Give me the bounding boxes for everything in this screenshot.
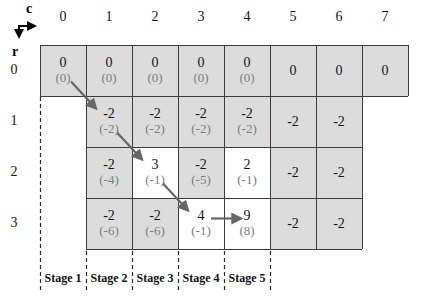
cell-value: -2	[333, 114, 345, 130]
cell-subvalue: (0)	[193, 71, 208, 86]
cell-r0-c5: 0	[270, 45, 316, 96]
row-axis-label: r	[8, 44, 22, 60]
cell-r1-c6: -2	[316, 96, 362, 147]
cell-r3-c4: 9(8)	[224, 198, 270, 249]
cell-value: 0	[106, 55, 113, 71]
cell-subvalue: (-2)	[99, 122, 119, 137]
row-label-3: 3	[4, 215, 24, 231]
cell-r3-c6: -2	[316, 198, 362, 249]
cell-r2-c4: 2(-1)	[224, 147, 270, 198]
cell-r1-c1: -2(-2)	[86, 96, 132, 147]
cell-value: 0	[244, 55, 251, 71]
cell-value: -2	[287, 165, 299, 181]
cell-r0-c2: 0(0)	[132, 45, 178, 96]
cell-value: 2	[244, 157, 251, 173]
column-header-5: 5	[270, 9, 316, 25]
stage-label-2: Stage 2	[86, 271, 132, 286]
cell-value: 0	[60, 55, 67, 71]
cell-subvalue: (-4)	[99, 173, 119, 188]
cell-value: -2	[195, 157, 207, 173]
cell-subvalue: (0)	[101, 71, 116, 86]
cell-subvalue: (-2)	[145, 122, 165, 137]
cell-value: 0	[336, 63, 343, 79]
column-header-2: 2	[132, 9, 178, 25]
cell-value: -2	[149, 208, 161, 224]
cell-r0-c7: 0	[362, 45, 408, 96]
cell-r3-c5: -2	[270, 198, 316, 249]
stage-label-3: Stage 3	[132, 271, 178, 286]
cell-r0-c6: 0	[316, 45, 362, 96]
cell-r2-c1: -2(-4)	[86, 147, 132, 198]
stage-label-5: Stage 5	[224, 271, 270, 286]
cell-r2-c3: -2(-5)	[178, 147, 224, 198]
cell-r3-c3: 4(-1)	[178, 198, 224, 249]
cell-r0-c1: 0(0)	[86, 45, 132, 96]
cell-r0-c3: 0(0)	[178, 45, 224, 96]
cell-r1-c4: -2(-2)	[224, 96, 270, 147]
cell-value: -2	[195, 106, 207, 122]
column-axis-label: c	[26, 1, 32, 17]
column-header-3: 3	[178, 9, 224, 25]
cell-value: 9	[244, 208, 251, 224]
cell-value: 0	[290, 63, 297, 79]
cell-value: -2	[333, 165, 345, 181]
column-header-7: 7	[362, 9, 408, 25]
cell-r3-c1: -2(-6)	[86, 198, 132, 249]
cell-r1-c2: -2(-2)	[132, 96, 178, 147]
cell-subvalue: (-1)	[145, 173, 165, 188]
column-header-4: 4	[224, 9, 270, 25]
cell-r2-c2: 3(-1)	[132, 147, 178, 198]
cell-r1-c5: -2	[270, 96, 316, 147]
cell-value: -2	[103, 208, 115, 224]
cell-value: 0	[382, 63, 389, 79]
cell-value: 3	[152, 157, 159, 173]
cell-value: 4	[198, 208, 205, 224]
cell-subvalue: (-6)	[145, 224, 165, 239]
cell-value: -2	[103, 157, 115, 173]
cell-subvalue: (-6)	[99, 224, 119, 239]
cell-value: -2	[149, 106, 161, 122]
cell-subvalue: (-1)	[237, 173, 257, 188]
cell-subvalue: (0)	[55, 71, 70, 86]
cell-value: -2	[287, 114, 299, 130]
cell-r0-c0: 0(0)	[40, 45, 86, 96]
stage-label-1: Stage 1	[40, 271, 86, 286]
cell-r2-c5: -2	[270, 147, 316, 198]
cell-subvalue: (8)	[239, 224, 254, 239]
column-header-0: 0	[40, 9, 86, 25]
cell-value: -2	[333, 216, 345, 232]
row-label-2: 2	[4, 164, 24, 180]
column-header-6: 6	[316, 9, 362, 25]
cell-value: -2	[103, 106, 115, 122]
cell-value: 0	[152, 55, 159, 71]
dp-stage-table-diagram: c r 01234567 0123 0(0)0(0)0(0)0(0)0(0)00…	[0, 0, 427, 301]
stage-label-4: Stage 4	[178, 271, 224, 286]
cell-subvalue: (-5)	[191, 173, 211, 188]
cell-value: 0	[198, 55, 205, 71]
cell-subvalue: (-2)	[237, 122, 257, 137]
cell-subvalue: (-2)	[191, 122, 211, 137]
cell-subvalue: (-1)	[191, 224, 211, 239]
row-label-1: 1	[4, 113, 24, 129]
cell-r0-c4: 0(0)	[224, 45, 270, 96]
cell-r3-c2: -2(-6)	[132, 198, 178, 249]
cell-subvalue: (0)	[239, 71, 254, 86]
column-header-1: 1	[86, 9, 132, 25]
cell-r2-c6: -2	[316, 147, 362, 198]
cell-value: -2	[241, 106, 253, 122]
row-label-0: 0	[4, 62, 24, 78]
cell-r1-c3: -2(-2)	[178, 96, 224, 147]
cell-subvalue: (0)	[147, 71, 162, 86]
cell-value: -2	[287, 216, 299, 232]
